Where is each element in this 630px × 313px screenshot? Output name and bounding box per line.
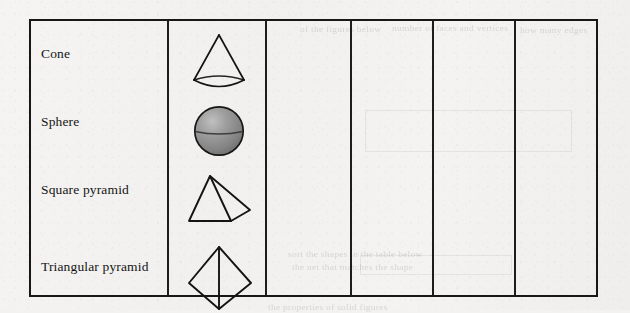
column-divider-4 bbox=[432, 21, 434, 295]
row-label-cone: Cone bbox=[41, 46, 70, 62]
row-label-square-pyramid: Square pyramid bbox=[41, 182, 129, 198]
row-label-triangular-pyramid: Triangular pyramid bbox=[41, 259, 149, 275]
shape-cell-square-pyramid bbox=[171, 169, 267, 233]
sphere-icon bbox=[191, 103, 247, 159]
row-label-sphere: Sphere bbox=[41, 114, 79, 130]
shape-cell-sphere bbox=[171, 97, 267, 165]
triangular-pyramid-icon bbox=[183, 243, 255, 313]
square-pyramid-icon bbox=[179, 172, 259, 230]
shape-cell-triangular-pyramid bbox=[171, 243, 267, 313]
column-divider-3 bbox=[350, 21, 352, 295]
shape-cell-cone bbox=[171, 29, 267, 97]
3d-shapes-table: Cone Sphere Square pyramid bbox=[29, 19, 598, 297]
column-divider-1 bbox=[167, 21, 169, 295]
column-divider-5 bbox=[514, 21, 516, 295]
cone-icon bbox=[182, 32, 256, 94]
